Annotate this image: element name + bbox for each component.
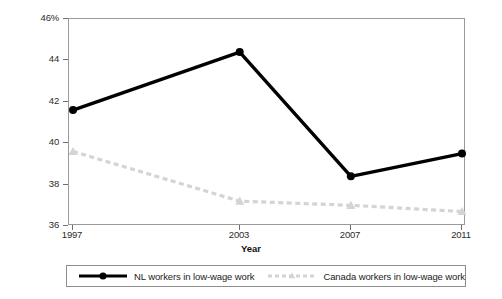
data-point xyxy=(347,172,355,180)
x-tick-label: 1997 xyxy=(62,229,82,240)
y-tick-mark xyxy=(63,225,68,226)
x-tick-label: 2011 xyxy=(451,229,471,240)
y-tick-label: 42 xyxy=(49,95,59,106)
legend-swatch-solid-line-icon xyxy=(78,270,128,282)
y-tick-label: 38 xyxy=(49,178,59,189)
y-tick-label: 40 xyxy=(49,136,59,147)
legend-label-canada: Canada workers in low-wage work xyxy=(323,271,465,282)
data-point xyxy=(69,106,77,114)
legend-label-nl: NL workers in low-wage work xyxy=(134,271,255,282)
data-point xyxy=(458,150,466,158)
y-tick-label: 46% xyxy=(41,12,59,23)
plot-lines xyxy=(69,19,466,226)
x-axis-title: Year xyxy=(0,243,502,254)
x-tick-label: 2003 xyxy=(229,229,249,240)
legend-item-canada[interactable]: Canada workers in low-wage work xyxy=(261,266,465,286)
plot-area xyxy=(68,18,465,225)
series-canada xyxy=(69,147,466,215)
y-tick-label: 36 xyxy=(49,219,59,230)
data-point xyxy=(236,48,244,56)
chart-legend: NL workers in low-wage work Canada worke… xyxy=(66,265,466,287)
legend-swatch-dashed-line-icon xyxy=(267,270,317,282)
x-tick-label: 2007 xyxy=(340,229,360,240)
chart-container: % Total Employed 363840424446% 199720032… xyxy=(0,0,502,299)
series-nl xyxy=(69,48,466,180)
y-tick-label: 44 xyxy=(49,53,59,64)
legend-item-nl[interactable]: NL workers in low-wage work xyxy=(67,266,261,286)
